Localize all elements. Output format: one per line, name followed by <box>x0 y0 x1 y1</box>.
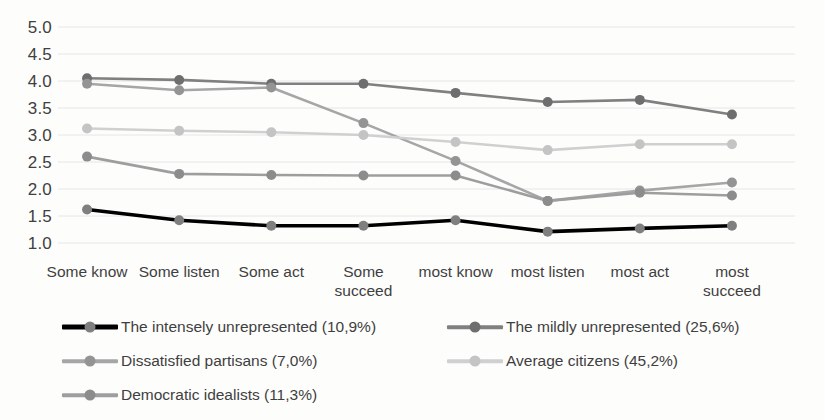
chart-canvas <box>0 0 825 262</box>
series-line <box>87 78 732 114</box>
legend-label: The mildly unrepresented (25,6%) <box>506 319 739 335</box>
data-point-marker <box>635 188 645 198</box>
data-point-marker <box>451 156 461 166</box>
data-point-marker <box>266 82 276 92</box>
data-point-marker <box>358 130 368 140</box>
x-axis-tick-label: most succeed <box>697 262 767 301</box>
data-point-marker <box>266 127 276 137</box>
data-point-marker <box>543 196 553 206</box>
legend-item[interactable]: The intensely unrepresented (10,9%) <box>62 319 376 335</box>
data-point-marker <box>82 205 92 215</box>
data-point-marker <box>174 75 184 85</box>
legend-label: Democratic idealists (11,3%) <box>121 387 317 403</box>
data-point-marker <box>451 88 461 98</box>
data-point-marker <box>174 215 184 225</box>
plot-area: 1.01.52.02.53.03.54.04.55.0 <box>0 0 825 262</box>
legend-swatch-icon <box>447 319 503 335</box>
x-axis-tick-label: Some listen <box>127 262 232 281</box>
data-point-marker <box>727 109 737 119</box>
data-point-marker <box>727 221 737 231</box>
data-point-marker <box>358 221 368 231</box>
data-point-marker <box>635 95 645 105</box>
x-axis-tick-label: Some know <box>35 262 140 281</box>
chart-legend: The intensely unrepresented (10,9%)The m… <box>0 316 825 416</box>
line-chart: 1.01.52.02.53.03.54.04.55.0 Some knowSom… <box>0 0 825 420</box>
legend-swatch-icon <box>447 353 503 369</box>
gridlines <box>58 27 795 243</box>
data-point-marker <box>82 79 92 89</box>
data-point-marker <box>543 97 553 107</box>
data-point-marker <box>451 137 461 147</box>
series-markers <box>82 73 737 236</box>
data-point-marker <box>82 124 92 134</box>
legend-label: Dissatisfied partisans (7,0%) <box>121 353 317 369</box>
x-axis-tick-label: most know <box>403 262 508 281</box>
data-point-marker <box>727 190 737 200</box>
data-point-marker <box>174 169 184 179</box>
legend-label: The intensely unrepresented (10,9%) <box>121 319 376 335</box>
data-point-marker <box>451 171 461 181</box>
data-point-marker <box>543 145 553 155</box>
legend-swatch-icon <box>62 387 118 403</box>
data-point-marker <box>358 171 368 181</box>
legend-label: Average citizens (45,2%) <box>506 353 678 369</box>
data-point-marker <box>266 221 276 231</box>
x-axis-tick-label: most act <box>587 262 692 281</box>
legend-swatch-icon <box>62 353 118 369</box>
data-point-marker <box>174 126 184 136</box>
legend-item[interactable]: Democratic idealists (11,3%) <box>62 387 317 403</box>
data-point-marker <box>358 118 368 128</box>
legend-item[interactable]: The mildly unrepresented (25,6%) <box>447 319 739 335</box>
legend-item[interactable]: Dissatisfied partisans (7,0%) <box>62 353 317 369</box>
x-axis-tick-label: most listen <box>495 262 600 281</box>
data-point-marker <box>727 139 737 149</box>
data-point-marker <box>727 178 737 188</box>
x-axis-tick-label: Some succeed <box>328 262 398 301</box>
legend-item[interactable]: Average citizens (45,2%) <box>447 353 678 369</box>
data-point-marker <box>358 79 368 89</box>
data-point-marker <box>174 85 184 95</box>
data-point-marker <box>635 139 645 149</box>
data-point-marker <box>635 223 645 233</box>
data-point-marker <box>543 227 553 237</box>
x-axis-tick-labels: Some knowSome listenSome actSome succeed… <box>0 258 825 313</box>
x-axis-tick-label: Some act <box>219 262 324 281</box>
data-point-marker <box>266 170 276 180</box>
data-point-marker <box>451 215 461 225</box>
data-point-marker <box>82 152 92 162</box>
legend-swatch-icon <box>62 319 118 335</box>
